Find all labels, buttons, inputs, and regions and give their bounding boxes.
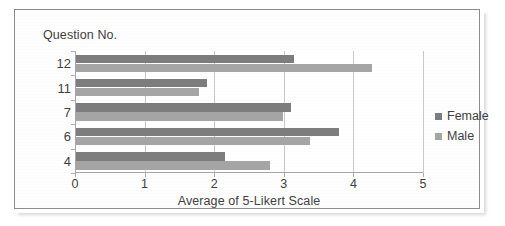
bar-group-question-4	[75, 149, 423, 173]
legend-label-female: Female	[447, 110, 489, 123]
plot-area	[75, 51, 423, 173]
x-axis-label-1: 1	[141, 178, 148, 191]
y-axis-title: Question No.	[43, 28, 117, 42]
y-axis-label-7: 7	[27, 106, 71, 119]
x-axis-label-4: 4	[350, 178, 357, 191]
bar-female-question-11	[75, 79, 207, 88]
bar-male-question-6	[75, 137, 310, 146]
bar-female-question-4	[75, 152, 225, 161]
x-axis-tick-labels: 012345	[75, 178, 423, 194]
gridline-5	[423, 51, 424, 173]
bar-male-question-4	[75, 161, 270, 170]
x-axis-label-3: 3	[280, 178, 287, 191]
y-axis-tick-labels: 1211764	[23, 51, 71, 173]
y-axis-label-11: 11	[27, 82, 71, 95]
x-axis-label-5: 5	[420, 178, 427, 191]
legend-label-male: Male	[447, 130, 474, 143]
y-axis-line	[75, 51, 76, 173]
chart-figure: Question No. 1211764 012345 Average of 5…	[14, 9, 480, 209]
x-axis-label-2: 2	[211, 178, 218, 191]
bar-female-question-6	[75, 128, 339, 137]
y-axis-label-6: 6	[27, 130, 71, 143]
bar-male-question-12	[75, 64, 372, 73]
bar-female-question-12	[75, 55, 294, 64]
bar-group-question-11	[75, 75, 423, 99]
x-axis-line	[75, 172, 423, 173]
legend-swatch-male-icon	[435, 133, 442, 140]
y-axis-label-12: 12	[27, 57, 71, 70]
bar-male-question-11	[75, 88, 199, 97]
legend-item-female[interactable]: Female	[435, 106, 493, 126]
x-axis-label-0: 0	[72, 178, 79, 191]
bar-group-question-12	[75, 51, 423, 75]
chart-legend: FemaleMale	[435, 106, 493, 146]
bar-female-question-7	[75, 103, 291, 112]
legend-item-male[interactable]: Male	[435, 126, 493, 146]
bar-group-question-6	[75, 124, 423, 148]
y-axis-label-4: 4	[27, 155, 71, 168]
bar-male-question-7	[75, 112, 283, 121]
bar-group-question-7	[75, 100, 423, 124]
legend-swatch-female-icon	[435, 113, 442, 120]
x-axis-title: Average of 5-Likert Scale	[75, 194, 423, 208]
